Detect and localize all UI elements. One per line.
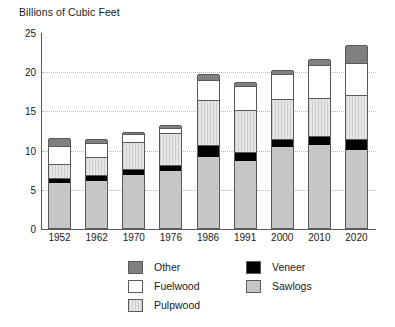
- bar-segment-fuelwood[interactable]: [49, 146, 70, 164]
- stacked-bar-chart: Billions of Cubic Feet 0510152025 195219…: [0, 0, 395, 327]
- bar-segment-fuelwood[interactable]: [86, 143, 107, 158]
- bars-layer: [41, 33, 375, 229]
- stacked-bar[interactable]: [48, 139, 71, 229]
- bar-segment-sawlogs[interactable]: [198, 157, 219, 228]
- bar-segment-fuelwood[interactable]: [272, 74, 293, 100]
- legend-swatch-sawlogs: [246, 280, 261, 293]
- legend-column-2: VeneerSawlogs: [246, 258, 312, 296]
- bar-segment-veneer[interactable]: [49, 178, 70, 183]
- bar-segment-other[interactable]: [123, 132, 144, 134]
- bar-segment-fuelwood[interactable]: [123, 134, 144, 142]
- bar-segment-fuelwood[interactable]: [198, 80, 219, 100]
- y-axis-tick-label: 10: [25, 145, 36, 156]
- stacked-bar[interactable]: [308, 60, 331, 229]
- x-axis-tick-label: 2020: [345, 232, 367, 243]
- bar-segment-fuelwood[interactable]: [160, 128, 181, 133]
- stacked-bar[interactable]: [122, 133, 145, 229]
- bar-segment-veneer[interactable]: [235, 152, 256, 161]
- bar-segment-other[interactable]: [86, 139, 107, 143]
- bar-segment-pulpwood[interactable]: [86, 157, 107, 175]
- legend-label: Other: [154, 261, 180, 273]
- x-axis-tick-label: 1962: [86, 232, 108, 243]
- bar-segment-fuelwood[interactable]: [309, 65, 330, 98]
- legend-item[interactable]: Other: [128, 258, 200, 276]
- y-axis-tick-label: 5: [30, 184, 36, 195]
- legend-item[interactable]: Pulpwood: [128, 296, 200, 314]
- x-axis-tick-label: 1976: [160, 232, 182, 243]
- y-axis-tick-label: 20: [25, 67, 36, 78]
- bar-segment-sawlogs[interactable]: [346, 150, 367, 228]
- stacked-bar[interactable]: [159, 126, 182, 229]
- x-axis-tick-label: 1952: [48, 232, 70, 243]
- bar-segment-veneer[interactable]: [309, 136, 330, 145]
- x-axis: 195219621970197619861991200020102020: [41, 232, 375, 248]
- x-axis-tick-label: 2000: [271, 232, 293, 243]
- bar-segment-fuelwood[interactable]: [235, 86, 256, 110]
- x-axis-tick-label: 1986: [197, 232, 219, 243]
- chart-legend: OtherFuelwoodPulpwood VeneerSawlogs: [128, 258, 363, 314]
- bar-segment-other[interactable]: [160, 125, 181, 128]
- chart-title: Billions of Cubic Feet: [19, 6, 120, 18]
- bar-segment-other[interactable]: [309, 59, 330, 64]
- legend-swatch-veneer: [246, 261, 261, 274]
- bar-segment-pulpwood[interactable]: [49, 164, 70, 178]
- bar-segment-other[interactable]: [49, 138, 70, 146]
- stacked-bar[interactable]: [271, 71, 294, 229]
- bar-segment-pulpwood[interactable]: [346, 95, 367, 139]
- bar-segment-veneer[interactable]: [123, 169, 144, 174]
- legend-item[interactable]: Sawlogs: [246, 277, 312, 295]
- stacked-bar[interactable]: [197, 75, 220, 229]
- bar-segment-veneer[interactable]: [272, 139, 293, 147]
- x-axis-tick-label: 1991: [234, 232, 256, 243]
- bar-segment-sawlogs[interactable]: [123, 175, 144, 228]
- bar-segment-sawlogs[interactable]: [86, 181, 107, 228]
- legend-label: Sawlogs: [272, 280, 312, 292]
- bar-segment-pulpwood[interactable]: [198, 100, 219, 145]
- bar-segment-veneer[interactable]: [346, 139, 367, 151]
- y-axis-tick-label: 0: [30, 224, 36, 235]
- x-axis-tick-label: 1970: [123, 232, 145, 243]
- legend-label: Fuelwood: [154, 280, 200, 292]
- bar-segment-pulpwood[interactable]: [123, 142, 144, 169]
- bar-segment-pulpwood[interactable]: [272, 99, 293, 139]
- bar-segment-sawlogs[interactable]: [49, 183, 70, 228]
- bar-segment-other[interactable]: [198, 74, 219, 79]
- stacked-bar[interactable]: [234, 83, 257, 229]
- bar-segment-pulpwood[interactable]: [160, 133, 181, 164]
- legend-swatch-other: [128, 261, 143, 274]
- x-axis-tick-label: 2010: [308, 232, 330, 243]
- bar-segment-other[interactable]: [235, 82, 256, 86]
- bar-segment-veneer[interactable]: [198, 145, 219, 157]
- legend-column-1: OtherFuelwoodPulpwood: [128, 258, 200, 315]
- legend-item[interactable]: Veneer: [246, 258, 312, 276]
- legend-swatch-fuelwood: [128, 280, 143, 293]
- bar-segment-sawlogs[interactable]: [309, 145, 330, 228]
- legend-swatch-pulpwood: [128, 299, 143, 312]
- y-axis: 0510152025: [0, 33, 36, 229]
- y-axis-tick-label: 25: [25, 28, 36, 39]
- bar-segment-pulpwood[interactable]: [235, 110, 256, 152]
- bar-segment-sawlogs[interactable]: [235, 161, 256, 228]
- legend-item[interactable]: Fuelwood: [128, 277, 200, 295]
- legend-label: Veneer: [272, 261, 305, 273]
- legend-label: Pulpwood: [154, 299, 200, 311]
- bar-segment-veneer[interactable]: [86, 175, 107, 180]
- stacked-bar[interactable]: [345, 46, 368, 229]
- bar-segment-veneer[interactable]: [160, 165, 181, 171]
- bar-segment-pulpwood[interactable]: [309, 98, 330, 136]
- bar-segment-sawlogs[interactable]: [160, 171, 181, 228]
- y-axis-tick-label: 15: [25, 106, 36, 117]
- bar-segment-sawlogs[interactable]: [272, 147, 293, 228]
- bar-segment-other[interactable]: [272, 70, 293, 74]
- stacked-bar[interactable]: [85, 140, 108, 229]
- bar-segment-fuelwood[interactable]: [346, 63, 367, 94]
- bar-segment-other[interactable]: [346, 45, 367, 63]
